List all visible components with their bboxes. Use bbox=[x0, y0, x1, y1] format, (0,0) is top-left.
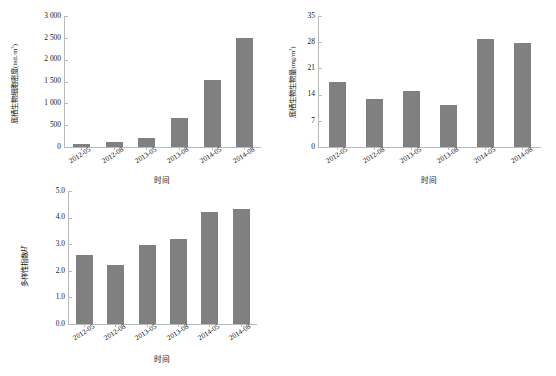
bar-slot bbox=[69, 191, 100, 324]
bar-density-2013-08 bbox=[171, 118, 188, 147]
x-axis-title-density: 时间 bbox=[64, 176, 260, 186]
y-axis-title-diversity-prime: ′ bbox=[20, 245, 29, 247]
y-axis-title-diversity-symbol: H bbox=[20, 247, 29, 252]
bar-series-diversity bbox=[69, 191, 257, 324]
x-label-slot: 2014-05 bbox=[194, 324, 225, 358]
bar-slot bbox=[228, 16, 261, 147]
y-axis-title-density: 底栖生物细胞密度(ind./m3) bbox=[6, 14, 20, 154]
y-axis-title-diversity: 多样性指数H′ bbox=[18, 196, 32, 336]
chart-panel-diversity: 多样性指数H′ 0.0 1.0 2.0 3.0 4.0 bbox=[0, 188, 278, 376]
bar-biomass-2013-08 bbox=[440, 105, 457, 147]
bar-density-2014-08 bbox=[236, 38, 253, 147]
bar-slot bbox=[98, 16, 131, 147]
plot-area-density: 0 500 1 000 1 500 2 000 2 500 bbox=[64, 16, 261, 148]
bar-density-2014-05 bbox=[204, 80, 221, 147]
bar-slot bbox=[132, 191, 163, 324]
bar-slot bbox=[393, 16, 430, 147]
bar-biomass-2012-05 bbox=[329, 82, 346, 148]
bar-biomass-2014-05 bbox=[477, 39, 494, 148]
bar-biomass-2012-08 bbox=[366, 99, 383, 147]
plot-area-diversity: 0.0 1.0 2.0 3.0 4.0 5.0 bbox=[68, 191, 257, 325]
bar-slot bbox=[163, 16, 196, 147]
bar-diversity-2012-08 bbox=[107, 265, 124, 324]
bar-diversity-2014-08 bbox=[233, 209, 250, 324]
bar-slot bbox=[194, 191, 225, 324]
bar-diversity-2012-05 bbox=[76, 255, 93, 324]
y-axis-title-density-main: 底栖生物细胞密度 bbox=[10, 68, 19, 124]
bar-slot bbox=[163, 191, 194, 324]
chart-panel-density: 底栖生物细胞密度(ind./m3) 0 500 1 000 1 500 2 00… bbox=[0, 0, 278, 188]
bar-series-biomass bbox=[319, 16, 541, 147]
chart-panel-biomass: 底栖生物生物量(mg/m3) 0 7 14 21 28 bbox=[278, 0, 556, 188]
bar-series-density bbox=[65, 16, 261, 147]
bar-slot bbox=[226, 191, 257, 324]
x-tick-labels-diversity: 2012-05 2012-08 2013-05 2013-08 2014-05 … bbox=[69, 324, 257, 358]
bar-slot bbox=[504, 16, 541, 147]
bar-biomass-2013-05 bbox=[403, 91, 420, 148]
bar-slot bbox=[196, 16, 229, 147]
y-axis-title-biomass: 底栖生物生物量(mg/m3) bbox=[284, 12, 298, 152]
y-axis-title-biomass-main: 底栖生物生物量 bbox=[288, 69, 297, 118]
bar-diversity-2013-08 bbox=[170, 239, 187, 324]
bar-slot bbox=[356, 16, 393, 147]
bar-slot bbox=[467, 16, 504, 147]
x-label-slot: 2013-05 bbox=[132, 324, 163, 358]
y-axis-title-density-unit: (ind./m3) bbox=[11, 44, 18, 68]
y-axis-title-diversity-main: 多样性指数 bbox=[20, 252, 29, 287]
bar-biomass-2014-08 bbox=[514, 43, 531, 147]
bar-diversity-2013-05 bbox=[139, 245, 156, 324]
x-label-slot: 2013-08 bbox=[163, 324, 194, 358]
x-axis-title-biomass: 时间 bbox=[318, 176, 540, 186]
bar-diversity-2014-05 bbox=[201, 212, 218, 324]
x-label-slot: 2012-05 bbox=[69, 324, 100, 358]
bar-slot bbox=[65, 16, 98, 147]
x-label-slot: 2012-08 bbox=[100, 324, 131, 358]
bar-slot bbox=[430, 16, 467, 147]
figure-root: 底栖生物细胞密度(ind./m3) 0 500 1 000 1 500 2 00… bbox=[0, 0, 556, 376]
bar-slot bbox=[130, 16, 163, 147]
bar-slot bbox=[319, 16, 356, 147]
plot-area-biomass: 0 7 14 21 28 35 bbox=[318, 16, 541, 148]
bar-slot bbox=[100, 191, 131, 324]
x-axis-title-diversity: 时间 bbox=[68, 355, 256, 365]
y-axis-title-biomass-unit: (mg/m3) bbox=[289, 46, 296, 68]
x-label-slot: 2014-08 bbox=[226, 324, 257, 358]
